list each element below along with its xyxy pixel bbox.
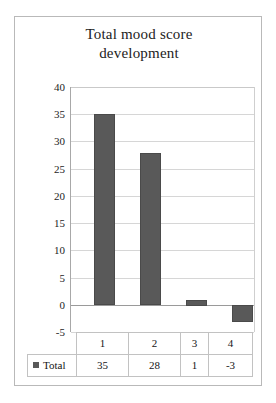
legend-swatch-icon	[33, 362, 39, 368]
bar-category-4[interactable]	[232, 305, 253, 322]
table-cell-total-3: 1	[180, 355, 208, 377]
y-tick-label-15: 15	[21, 218, 65, 229]
data-table: 1 2 3 4 Total 35 28 1 -3	[27, 332, 253, 377]
table-header-row: 1 2 3 4	[28, 333, 253, 355]
table-header-cell-4: 4	[208, 333, 252, 355]
bar-category-2[interactable]	[140, 153, 161, 305]
y-axis: 40 35 30 25 20 15 10 5 0 -5	[15, 87, 65, 332]
y-tick-label-25: 25	[21, 164, 65, 175]
chart-title: Total mood score development	[15, 25, 263, 63]
y-tick-label-40: 40	[21, 82, 65, 93]
table-header-cell-1: 1	[77, 333, 129, 355]
table-header-cell-3: 3	[180, 333, 208, 355]
chart-container: Total mood score development 40 35 30 25…	[14, 16, 262, 386]
chart-title-line-1: Total mood score	[15, 25, 263, 44]
y-tick-label-5: 5	[21, 273, 65, 284]
plot-area	[70, 87, 255, 332]
legend-label-total: Total	[43, 355, 65, 376]
table-cell-total-1: 35	[77, 355, 129, 377]
chart-title-line-2: development	[15, 44, 263, 63]
table-row: Total 35 28 1 -3	[28, 355, 253, 377]
y-tick-label-35: 35	[21, 109, 65, 120]
gridline-zero	[71, 305, 254, 306]
gridline-40	[71, 87, 254, 88]
table-header-cell-2: 2	[128, 333, 180, 355]
legend-item-total[interactable]: Total	[28, 355, 77, 377]
y-tick-label-20: 20	[21, 191, 65, 202]
bar-category-1[interactable]	[94, 114, 115, 305]
y-tick-label-10: 10	[21, 245, 65, 256]
y-tick-label-30: 30	[21, 136, 65, 147]
table-cell-total-2: 28	[128, 355, 180, 377]
bar-category-3[interactable]	[186, 300, 207, 306]
table-corner-cell	[28, 333, 77, 355]
y-tick-label-0: 0	[21, 300, 65, 311]
table-cell-total-4: -3	[208, 355, 252, 377]
